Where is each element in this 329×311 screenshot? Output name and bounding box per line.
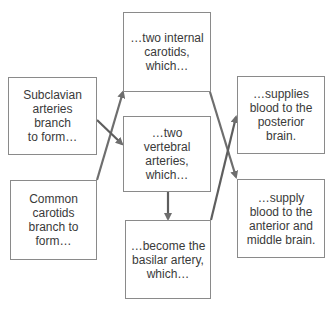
box-subclavian: Subclavian arteries branch to form… (8, 77, 97, 155)
box-anterior-middle-brain-text: …supply blood to the anterior and middle… (247, 191, 316, 247)
box-basilar: …become the basilar artery, which… (125, 220, 211, 299)
arrow-internal-to-anterior (210, 92, 236, 177)
box-common-carotids: Common carotids branch to form… (10, 180, 97, 260)
arrow-basilar-to-posterior (211, 117, 236, 220)
arrow-subclavian-to-vertebral (97, 120, 122, 144)
box-internal-carotids-text: …two internal carotids, which… (130, 31, 203, 73)
box-posterior-brain: …supplies blood to the posterior brain. (237, 76, 325, 154)
arrow-common-to-internal (97, 92, 123, 180)
box-common-carotids-text: Common carotids branch to form… (28, 192, 78, 248)
box-posterior-brain-text: …supplies blood to the posterior brain. (250, 87, 313, 143)
box-vertebral-text: …two vertebral arteries, which… (144, 126, 191, 182)
box-vertebral: …two vertebral arteries, which… (123, 116, 211, 192)
box-internal-carotids: …two internal carotids, which… (123, 12, 211, 92)
box-basilar-text: …become the basilar artery, which… (131, 239, 206, 281)
box-subclavian-text: Subclavian arteries branch to form… (13, 88, 92, 144)
box-anterior-middle-brain: …supply blood to the anterior and middle… (237, 179, 325, 258)
